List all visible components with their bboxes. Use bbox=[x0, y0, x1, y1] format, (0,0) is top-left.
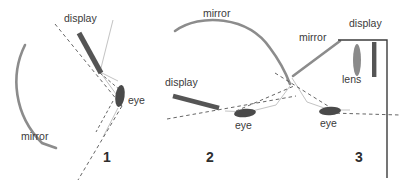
panel-3-lens-ellipse bbox=[353, 44, 361, 76]
panel-2-eye-label: eye bbox=[235, 119, 252, 131]
panel-1: display mirror eye 1 bbox=[16, 12, 145, 180]
panel-2-eye-ellipse bbox=[234, 108, 257, 119]
panel-3-numeral: 3 bbox=[355, 149, 363, 165]
panel-1-ray-solid-c bbox=[103, 108, 118, 137]
panel-3-display-label: display bbox=[349, 17, 382, 29]
panel-3-ray-dashed-axis bbox=[330, 113, 400, 115]
panel-3-display-bar bbox=[372, 42, 376, 77]
panel-1-eye-label: eye bbox=[128, 94, 145, 106]
panel-1-ray-dashed-axis bbox=[55, 24, 122, 106]
panel-1-display-label: display bbox=[64, 12, 97, 24]
panel-1-numeral: 1 bbox=[103, 149, 111, 165]
panel-1-ray-dashed-eye bbox=[96, 101, 113, 132]
panel-3-ray-dashed-down bbox=[275, 73, 336, 111]
panel-2-numeral: 2 bbox=[206, 149, 214, 165]
panel-3-mirror-label: mirror bbox=[299, 31, 327, 43]
panel-2-mirror-arc bbox=[175, 20, 290, 84]
panel-3: mirror display lens eye 3 bbox=[275, 17, 400, 178]
diagram-canvas: display mirror eye 1 mirror display eye … bbox=[0, 0, 410, 191]
panel-1-ray-solid-a bbox=[100, 72, 118, 81]
panel-2-ray-solid bbox=[225, 86, 290, 112]
panel-3-eye-label: eye bbox=[320, 117, 337, 129]
panel-1-eye-ellipse bbox=[114, 84, 126, 107]
panel-1-ray-solid-upper bbox=[100, 20, 113, 72]
panel-1-ray-dashed-lower bbox=[78, 106, 122, 180]
panel-2-display-label: display bbox=[165, 76, 198, 88]
panel-2: mirror display eye 2 bbox=[165, 7, 296, 165]
optics-diagram-figure: display mirror eye 1 mirror display eye … bbox=[0, 0, 410, 191]
panel-2-mirror-label: mirror bbox=[203, 7, 231, 19]
panel-2-ray-dashed-up bbox=[236, 86, 294, 111]
panel-1-ray-solid-b bbox=[100, 72, 116, 94]
panel-3-mirror-line bbox=[293, 41, 340, 76]
panel-2-display-bar bbox=[173, 96, 219, 108]
panel-3-lens-label: lens bbox=[342, 73, 361, 85]
panel-1-mirror-label: mirror bbox=[21, 130, 49, 142]
